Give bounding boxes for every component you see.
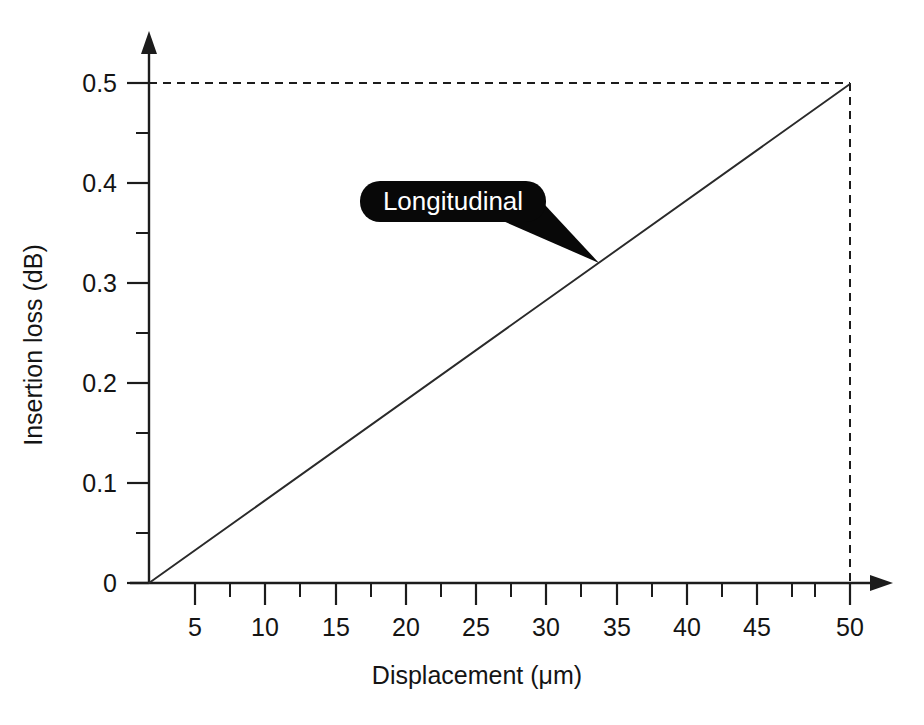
y-axis-minor-ticks: [136, 133, 149, 533]
data-series-longitudinal: [149, 84, 850, 583]
y-tick-label: 0: [103, 569, 117, 597]
y-tick-label: 0.4: [82, 169, 117, 197]
x-axis-title: Displacement (μm): [372, 661, 582, 689]
y-tick-label: 0.3: [82, 269, 117, 297]
x-tick-label: 40: [673, 613, 701, 641]
x-axis-minor-ticks: [230, 583, 815, 597]
x-tick-labels: 5 10 15 20 25 30 35 40 45 50: [188, 613, 864, 641]
x-tick-label: 5: [188, 613, 202, 641]
y-tick-label: 0.5: [82, 69, 117, 97]
insertion-loss-chart: 5 10 15 20 25 30 35 40 45 50 0.5 0.4 0.3…: [0, 0, 924, 725]
data-line-longitudinal: [149, 84, 850, 583]
y-tick-labels: 0.5 0.4 0.3 0.2 0.1 0: [82, 69, 117, 597]
x-tick-label: 50: [836, 613, 864, 641]
y-tick-label: 0.1: [82, 469, 117, 497]
callout-label: Longitudinal: [383, 186, 523, 216]
x-tick-label: 25: [462, 613, 490, 641]
x-tick-label: 20: [392, 613, 420, 641]
y-axis-arrow-icon: [141, 31, 157, 54]
x-tick-label: 45: [743, 613, 771, 641]
x-tick-label: 30: [532, 613, 560, 641]
x-tick-label: 15: [322, 613, 350, 641]
x-tick-label: 35: [603, 613, 631, 641]
chart-page: 5 10 15 20 25 30 35 40 45 50 0.5 0.4 0.3…: [0, 0, 924, 725]
x-axis-arrow-icon: [870, 575, 893, 591]
y-tick-label: 0.2: [82, 369, 117, 397]
x-tick-label: 10: [251, 613, 279, 641]
callout-annotation-longitudinal: Longitudinal: [360, 181, 599, 263]
axes-group: [130, 31, 893, 591]
y-axis-title: Insertion loss (dB): [19, 244, 47, 445]
x-axis-major-ticks: [195, 583, 850, 605]
